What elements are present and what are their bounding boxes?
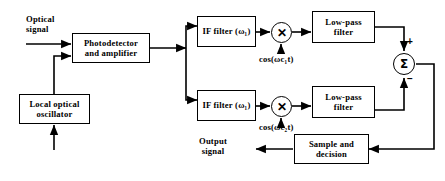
summing-junction-node[interactable]: Σ <box>393 53 415 75</box>
block-if-filter-upper[interactable]: IF filter (ω₁) <box>197 16 256 47</box>
block-local-oscillator[interactable]: Local optical oscillator <box>19 94 90 124</box>
multiply-icon: ✕ <box>277 100 287 114</box>
wire-lo-to-photodetector <box>54 56 71 94</box>
label-sum-minus: − <box>407 74 413 84</box>
label-output-signal-line2: signal <box>199 146 227 156</box>
block-lpf-lower-line1: Low-pass <box>325 92 361 102</box>
block-lpf-lower-line2: filter <box>325 102 361 112</box>
block-local-oscillator-line1: Local optical <box>29 99 79 109</box>
block-lpf-upper-line2: filter <box>325 27 361 37</box>
block-sample-decision-line2: decision <box>309 149 354 159</box>
block-if-filter-lower-label: IF filter (ω₁) <box>203 100 251 110</box>
wire-sum-to-sample-decision <box>369 64 434 149</box>
label-output-signal-line1: Output <box>199 136 227 146</box>
wire-lpf-lower-to-sum-minus <box>375 78 404 110</box>
block-photodetector-line2: and amplifier <box>84 48 138 58</box>
block-low-pass-filter-lower[interactable]: Low-pass filter <box>312 86 375 118</box>
label-carrier-upper: cos(ωc₁t) <box>259 54 294 64</box>
block-if-filter-upper-label: IF filter (ω₁) <box>203 26 251 36</box>
block-local-oscillator-line2: oscillator <box>29 109 79 119</box>
label-optical-signal-line1: Optical <box>26 14 55 24</box>
wire-split-to-if-lower <box>186 48 197 100</box>
block-low-pass-filter-upper[interactable]: Low-pass filter <box>312 11 375 43</box>
mixer-upper-node[interactable]: ✕ <box>271 22 292 43</box>
label-optical-signal: Optical signal <box>26 14 55 35</box>
block-if-filter-lower[interactable]: IF filter (ω₁) <box>197 90 256 121</box>
multiply-icon: ✕ <box>277 26 287 40</box>
block-lpf-upper-line1: Low-pass <box>325 17 361 27</box>
block-photodetector-line1: Photodetector <box>84 38 138 48</box>
label-optical-signal-line2: signal <box>26 24 55 34</box>
block-diagram-canvas: Photodetector and amplifier Local optica… <box>0 0 445 181</box>
wire-lpf-upper-to-sum-plus <box>375 27 404 51</box>
label-output-signal: Output signal <box>199 136 227 157</box>
block-sample-decision-line1: Sample and <box>309 139 354 149</box>
wire-split-to-if-upper <box>186 26 197 48</box>
sigma-icon: Σ <box>400 57 408 71</box>
label-carrier-lower: cos(ωc₂t) <box>259 122 294 132</box>
block-photodetector[interactable]: Photodetector and amplifier <box>72 33 150 63</box>
block-sample-and-decision[interactable]: Sample and decision <box>294 134 369 164</box>
label-sum-plus: + <box>407 37 413 47</box>
mixer-lower-node[interactable]: ✕ <box>271 96 292 117</box>
